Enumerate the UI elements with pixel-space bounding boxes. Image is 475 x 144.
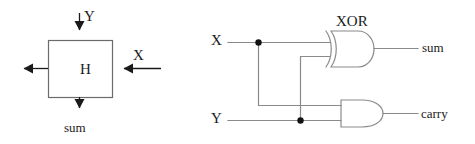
wire-y-branch-to-xor xyxy=(301,57,331,121)
block-x-input-label: X xyxy=(133,48,144,63)
xor-gate-label: XOR xyxy=(336,14,368,29)
wire-x-branch-to-and xyxy=(259,43,342,106)
gate-carry-output-label: carry xyxy=(421,107,448,120)
and-gate-body xyxy=(341,100,383,127)
junction-dot-x xyxy=(255,39,261,45)
block-sum-output-label: sum xyxy=(64,121,86,134)
gate-sum-output-label: sum xyxy=(422,41,444,54)
figure-canvas: Y H X sum X Y XOR sum carry xyxy=(0,0,475,144)
gate-x-input-label: X xyxy=(211,33,222,48)
gate-y-input-label: Y xyxy=(211,111,222,126)
gate-level-group xyxy=(228,31,418,127)
xor-gate-input-arc xyxy=(326,31,331,67)
junction-dot-y xyxy=(297,117,303,123)
block-y-input-label: Y xyxy=(84,9,95,24)
xor-gate-body xyxy=(331,31,374,67)
block-box-label: H xyxy=(80,62,91,77)
